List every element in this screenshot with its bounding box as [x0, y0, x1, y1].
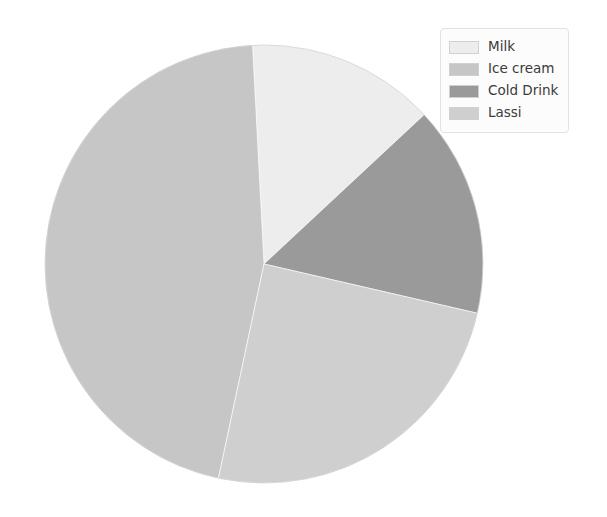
pie-slice-ice-cream[interactable]: [45, 45, 264, 478]
legend-label-ice-cream: Ice cream: [488, 62, 554, 76]
legend-label-milk: Milk: [488, 40, 515, 54]
chart-legend: Milk Ice cream Cold Drink Lassi: [440, 28, 569, 133]
legend-item-lassi[interactable]: Lassi: [449, 102, 558, 124]
legend-swatch-cold-drink: [449, 85, 479, 98]
pie-slice-group: [45, 45, 483, 483]
legend-item-cold-drink[interactable]: Cold Drink: [449, 80, 558, 102]
legend-item-milk[interactable]: Milk: [449, 36, 558, 58]
pie-chart-figure: Milk Ice cream Cold Drink Lassi: [0, 0, 607, 517]
legend-swatch-ice-cream: [449, 63, 479, 76]
legend-label-cold-drink: Cold Drink: [488, 84, 558, 98]
legend-swatch-milk: [449, 41, 479, 54]
legend-item-ice-cream[interactable]: Ice cream: [449, 58, 558, 80]
legend-swatch-lassi: [449, 107, 479, 120]
legend-label-lassi: Lassi: [488, 106, 522, 120]
